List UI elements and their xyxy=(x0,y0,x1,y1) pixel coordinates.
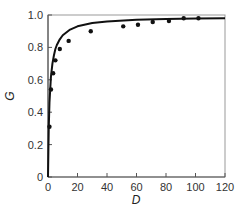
data-point xyxy=(151,20,155,24)
fitted-curve-line xyxy=(48,18,225,177)
data-point xyxy=(66,39,70,43)
data-point xyxy=(58,47,62,51)
x-axis-title: D xyxy=(132,193,141,207)
y-tick-label: 0.4 xyxy=(28,106,43,118)
data-point xyxy=(182,16,186,20)
x-tick-label: 20 xyxy=(71,181,83,193)
y-tick-label: 0 xyxy=(37,171,43,183)
data-point xyxy=(47,125,51,129)
data-points xyxy=(47,16,200,129)
x-tick-label: 40 xyxy=(101,181,113,193)
data-point xyxy=(121,24,125,28)
data-point xyxy=(136,23,140,27)
data-point xyxy=(51,71,55,75)
y-axis-title: G xyxy=(3,91,17,100)
data-point xyxy=(53,58,57,62)
x-tick-label: 0 xyxy=(45,181,51,193)
y-tick-label: 0.8 xyxy=(28,41,43,53)
plot-frame xyxy=(48,15,225,177)
y-tick-label: 0.6 xyxy=(28,74,43,86)
x-tick-label: 80 xyxy=(160,181,172,193)
x-tick-label: 60 xyxy=(130,181,142,193)
chart: 020406080100120 00.20.40.60.81.0 D G xyxy=(0,0,246,214)
x-axis-ticks: 020406080100120 xyxy=(45,173,234,193)
data-point xyxy=(49,87,53,91)
fitted-curve xyxy=(48,18,225,177)
x-tick-label: 120 xyxy=(216,181,234,193)
x-tick-label: 100 xyxy=(186,181,204,193)
data-point xyxy=(196,16,200,20)
y-tick-label: 0.2 xyxy=(28,139,43,151)
y-tick-label: 1.0 xyxy=(28,9,43,21)
data-point xyxy=(167,19,171,23)
data-point xyxy=(89,29,93,33)
